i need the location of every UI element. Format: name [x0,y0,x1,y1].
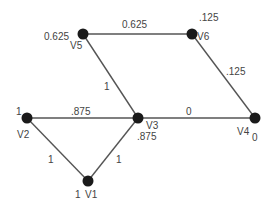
node-value-v3: .875 [137,131,157,142]
edge-weight-v5-v6: 0.625 [122,19,147,30]
edge-weight-v3-v1: 1 [116,154,122,165]
node-label-v4: V4 [237,126,250,137]
node-v3 [133,113,144,124]
node-value-v1: 1 [75,189,81,200]
node-label-v2: V2 [17,129,30,140]
node-v6 [187,29,198,40]
node-v5 [78,29,89,40]
edge-weight-v3-v4: 0 [186,106,192,117]
edge-weight-v2-v3: .875 [71,106,91,117]
node-value-v6: .125 [199,12,219,23]
edge-weight-v5-v3: 1 [104,81,110,92]
edge-v5-v3 [83,34,138,118]
node-v2 [22,113,33,124]
node-value-v2: 1 [16,106,22,117]
node-label-v6: V6 [197,31,210,42]
node-value-v4: 0 [252,132,258,143]
edge-weight-v2-v1: 1 [48,154,54,165]
edge-v2-v1 [27,118,88,181]
node-v1 [83,176,94,187]
node-value-v5: 0.625 [44,31,69,42]
node-label-v5: V5 [70,40,83,51]
node-v4 [250,113,261,124]
node-label-v1: V1 [85,189,98,200]
edge-v3-v1 [88,118,138,181]
edge-weight-v6-v4: .125 [226,66,246,77]
edge-v6-v4 [192,34,255,118]
node-label-v3: V3 [146,120,159,131]
graph-diagram: 0.625 1 .125 .875 0 1 1 V1 V2 V3 V4 V5 V… [0,0,274,209]
